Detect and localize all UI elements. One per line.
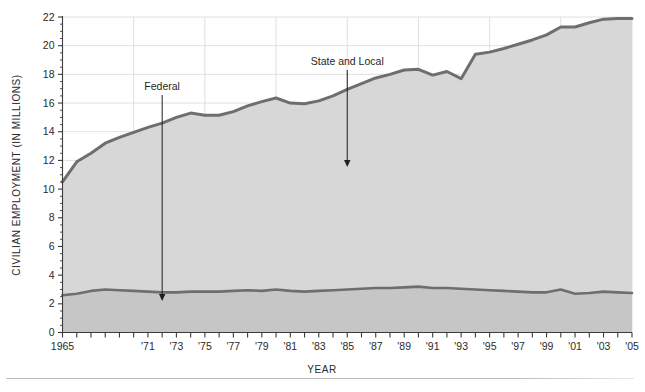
y-axis-title: CIVILIAN EMPLOYMENT (IN MILLIONS) [11, 74, 22, 275]
annotation-label: State and Local [311, 55, 384, 67]
x-axis-tick-label: '01 [568, 340, 582, 352]
y-axis-tick-label: 4 [49, 269, 55, 281]
x-axis-tick-label: '79 [255, 340, 269, 352]
x-axis-tick-label: '99 [540, 340, 554, 352]
chart-figure: 02468101214161820221965'71'73'75'77'79'8… [0, 0, 645, 392]
x-axis-tick-label: '75 [198, 340, 212, 352]
x-axis-tick-label: '89 [397, 340, 411, 352]
y-axis-tick-label: 2 [49, 297, 55, 309]
x-axis-tick-label: '97 [511, 340, 525, 352]
y-axis-tick-label: 18 [43, 68, 55, 80]
stacked-area-chart: 02468101214161820221965'71'73'75'77'79'8… [0, 0, 645, 392]
y-axis-tick-label: 22 [43, 11, 55, 23]
x-axis-tick-label: 1965 [51, 340, 75, 352]
y-axis-tick-label: 16 [43, 97, 55, 109]
x-axis-tick-label: '73 [170, 340, 184, 352]
x-axis-tick-label: '03 [597, 340, 611, 352]
x-axis-tick-label: '83 [312, 340, 326, 352]
y-axis-tick-label: 8 [49, 211, 55, 223]
x-axis-tick-label: '77 [227, 340, 241, 352]
x-axis-tick-label: '81 [283, 340, 297, 352]
y-axis-tick-label: 0 [49, 326, 55, 338]
x-axis-title: YEAR [307, 364, 336, 375]
x-axis-tick-label: '87 [369, 340, 383, 352]
y-axis-tick-label: 20 [43, 39, 55, 51]
y-axis-tick-label: 14 [43, 125, 55, 137]
x-axis-tick-label: '95 [483, 340, 497, 352]
y-axis-tick-label: 10 [43, 183, 55, 195]
x-axis-tick-label: '05 [625, 340, 639, 352]
footer-divider [6, 378, 634, 379]
y-axis-tick-label: 12 [43, 154, 55, 166]
x-axis-tick-label: '91 [426, 340, 440, 352]
y-axis-tick-label: 6 [49, 240, 55, 252]
x-axis-tick-label: '93 [454, 340, 468, 352]
x-axis-tick-label: '71 [141, 340, 155, 352]
x-axis-tick-label: '85 [340, 340, 354, 352]
annotation-label: Federal [144, 80, 180, 92]
